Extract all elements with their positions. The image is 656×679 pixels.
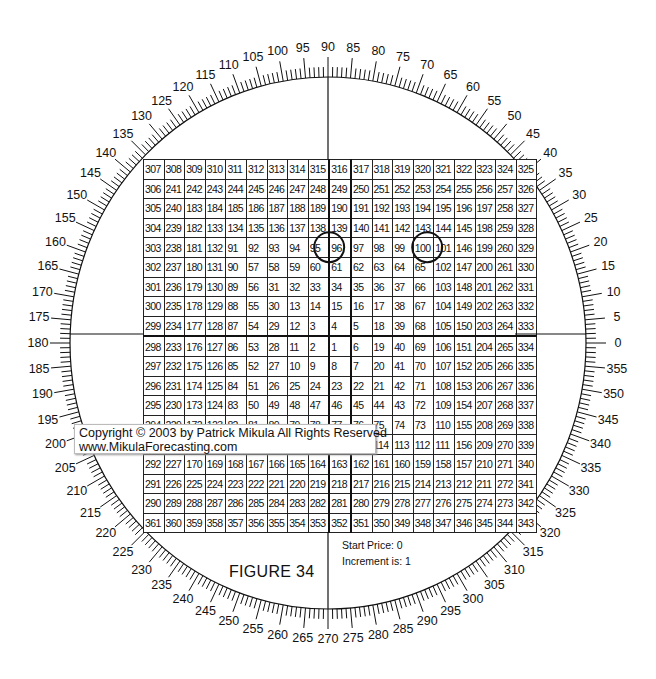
minor-tick <box>126 162 134 169</box>
minor-tick <box>585 362 595 363</box>
grid-cell: 158 <box>434 454 455 474</box>
minor-tick <box>583 300 593 302</box>
grid-cell: 148 <box>454 277 475 297</box>
grid-cell: 295 <box>144 396 165 416</box>
minor-tick <box>114 503 122 509</box>
minor-tick <box>469 112 474 120</box>
minor-tick <box>91 468 100 473</box>
grid-cell: 253 <box>413 179 434 199</box>
grid-cell: 221 <box>267 474 288 494</box>
minor-tick <box>403 597 406 607</box>
grid-cell: 125 <box>205 376 226 396</box>
minor-tick <box>126 518 134 525</box>
grid-cell: 198 <box>475 218 496 238</box>
minor-tick <box>159 550 165 558</box>
grid-cell: 226 <box>164 474 185 494</box>
minor-tick <box>579 281 589 283</box>
minor-tick <box>60 357 70 358</box>
grid-cell: 272 <box>496 474 517 494</box>
grid-cell: 298 <box>144 336 165 356</box>
minor-tick <box>390 601 392 611</box>
grid-cell: 203 <box>475 316 496 336</box>
grid-cell: 20 <box>372 356 393 376</box>
grid-cell: 126 <box>205 356 226 376</box>
grid-cell: 161 <box>372 454 393 474</box>
degree-label: 70 <box>420 58 434 72</box>
minor-tick <box>583 380 593 381</box>
major-tick <box>582 293 602 296</box>
major-tick <box>115 514 130 527</box>
grid-cell: 285 <box>246 494 267 514</box>
grid-cell: 57 <box>246 257 267 277</box>
minor-tick <box>66 398 76 400</box>
minor-tick <box>190 106 195 115</box>
grid-cell: 249 <box>329 179 351 199</box>
grid-cell: 337 <box>516 396 537 416</box>
degree-label: 65 <box>444 68 458 82</box>
minor-tick <box>178 564 184 572</box>
grid-cell: 296 <box>144 376 165 396</box>
minor-tick <box>263 75 265 85</box>
minor-tick <box>89 464 98 469</box>
grid-cell: 329 <box>516 238 537 258</box>
grid-cell: 243 <box>205 179 226 199</box>
grid-cell: 70 <box>413 356 434 376</box>
major-tick <box>510 141 524 155</box>
grid-cell: 247 <box>288 179 309 199</box>
minor-tick <box>178 114 184 122</box>
minor-tick <box>565 235 574 239</box>
minor-tick <box>514 151 521 158</box>
grid-cell: 210 <box>475 454 496 474</box>
grid-cell: 183 <box>185 199 206 219</box>
minor-tick <box>300 608 301 618</box>
grid-cell: 356 <box>246 513 267 533</box>
major-tick <box>476 561 487 577</box>
grid-cell: 245 <box>246 179 267 199</box>
minor-tick <box>480 558 486 566</box>
minor-tick <box>61 314 71 315</box>
degree-label: 355 <box>606 362 627 376</box>
minor-tick <box>103 193 111 198</box>
degree-label: 300 <box>463 592 484 606</box>
grid-cell: 197 <box>475 199 496 219</box>
grid-cell: 234 <box>164 316 185 336</box>
minor-tick <box>576 416 586 419</box>
minor-tick <box>149 541 156 548</box>
major-tick <box>280 605 283 625</box>
grid-cell: 22 <box>351 376 372 396</box>
grid-row: 3042391821331341351361371381391401411421… <box>144 218 537 238</box>
minor-tick <box>75 253 84 256</box>
major-tick <box>562 455 580 463</box>
grid-cell: 23 <box>329 376 351 396</box>
grid-cell: 281 <box>329 494 351 514</box>
minor-tick <box>132 524 139 531</box>
grid-cell: 38 <box>393 297 414 317</box>
minor-tick <box>272 73 274 83</box>
grid-cell: 5 <box>351 316 372 336</box>
grid-cell: 102 <box>434 257 455 277</box>
grid-cell: 344 <box>496 513 517 533</box>
grid-cell: 175 <box>185 356 206 376</box>
minor-tick <box>78 244 87 248</box>
minor-tick <box>62 309 72 310</box>
grid-cell: 242 <box>185 179 206 199</box>
minor-tick <box>578 407 588 409</box>
grid-cell: 207 <box>475 396 496 416</box>
minor-tick <box>170 120 176 128</box>
grid-cell: 61 <box>329 257 351 277</box>
minor-tick <box>368 70 370 80</box>
grid-cell: 45 <box>351 396 372 416</box>
minor-tick <box>420 591 424 600</box>
minor-tick <box>579 403 589 405</box>
grid-cell: 180 <box>185 257 206 277</box>
grid-cell: 46 <box>329 396 351 416</box>
grid-cell: 268 <box>496 396 517 416</box>
minor-tick <box>554 472 563 477</box>
minor-tick <box>62 375 72 376</box>
degree-label: 175 <box>29 310 50 324</box>
grid-cell: 152 <box>454 356 475 376</box>
grid-cell: 257 <box>496 179 517 199</box>
grid-cell: 73 <box>413 415 434 435</box>
minor-tick <box>490 129 496 137</box>
grid-cell: 40 <box>393 336 414 356</box>
